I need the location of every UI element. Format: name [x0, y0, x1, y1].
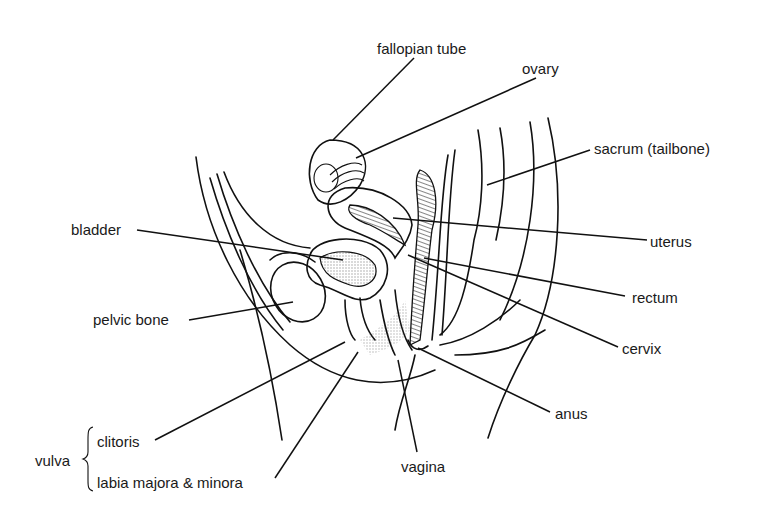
label-cervix: cervix	[622, 341, 661, 356]
label-vagina: vagina	[401, 459, 445, 474]
label-rectum: rectum	[632, 290, 678, 305]
label-clitoris: clitoris	[97, 434, 140, 449]
label-ovary: ovary	[522, 61, 559, 76]
label-vulva: vulva	[35, 453, 70, 468]
vagina-shape	[360, 290, 412, 355]
abdominal-wall-lines	[196, 157, 435, 440]
label-anus: anus	[555, 406, 588, 421]
uterus-shape	[328, 188, 412, 258]
label-bladder: bladder	[71, 222, 121, 237]
label-labia: labia majora & minora	[97, 475, 243, 490]
label-pelvic-bone: pelvic bone	[93, 312, 169, 327]
bladder-shape	[307, 239, 387, 340]
label-uterus: uterus	[650, 234, 692, 249]
sacrum-shape	[432, 118, 558, 438]
label-sacrum: sacrum (tailbone)	[594, 141, 710, 156]
vulva-brace	[83, 427, 93, 491]
label-fallopian-tube: fallopian tube	[377, 41, 466, 56]
anatomy-drawing	[0, 0, 765, 532]
ovary-shape	[309, 140, 365, 204]
pelvic-anatomy-diagram: fallopian tube ovary sacrum (tailbone) b…	[0, 0, 765, 532]
